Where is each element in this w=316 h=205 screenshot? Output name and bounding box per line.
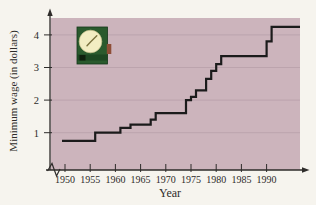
y-tick-label: 3 (34, 62, 39, 73)
x-tick-label: 1990 (257, 174, 277, 185)
x-tick-label: 1975 (181, 174, 201, 185)
clock-tab (107, 44, 112, 54)
clock-icon (77, 27, 111, 64)
x-tick-label: 1985 (231, 174, 251, 185)
x-tick-label: 1965 (131, 174, 151, 185)
y-tick-label: 4 (34, 30, 40, 41)
y-tick-label: 2 (34, 95, 39, 106)
x-axis-label: Year (159, 186, 181, 200)
x-tick-label: 1970 (156, 174, 176, 185)
x-tick-label: 1960 (105, 174, 125, 185)
clock-notch (80, 55, 86, 61)
minimum-wage-step-chart: 195019551960196519701975198019851990 123… (0, 0, 316, 205)
y-tick-label: 1 (34, 128, 39, 139)
y-axis-label: Minimum wage (in dollars) (7, 30, 20, 152)
x-tick-label: 1950 (55, 174, 75, 185)
x-tick-label: 1980 (206, 174, 226, 185)
x-tick-label: 1955 (80, 174, 100, 185)
